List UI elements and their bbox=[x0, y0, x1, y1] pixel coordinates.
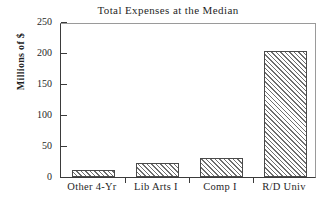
x-category-label: Lib Arts I bbox=[124, 181, 188, 192]
y-tick-label: 100 bbox=[37, 108, 52, 121]
x-category-label: R/D Univ bbox=[252, 181, 316, 192]
y-tick-mark bbox=[61, 146, 67, 147]
bar bbox=[264, 51, 307, 177]
bar bbox=[72, 170, 115, 177]
y-tick-label: 50 bbox=[42, 139, 52, 152]
y-tick-label: 200 bbox=[37, 46, 52, 59]
y-tick-mark bbox=[61, 177, 67, 178]
x-category-label: Other 4-Yr bbox=[60, 181, 124, 192]
bar-chart-figure: Total Expenses at the Median Millions of… bbox=[0, 0, 336, 202]
y-tick-mark bbox=[61, 115, 67, 116]
bar bbox=[200, 158, 243, 177]
y-tick-label: 150 bbox=[37, 77, 52, 90]
bar bbox=[136, 163, 179, 177]
y-tick-mark bbox=[61, 22, 67, 23]
y-axis-title: Millions of $ bbox=[15, 2, 26, 122]
plot-area: 050100150200250 bbox=[60, 23, 316, 178]
y-tick-mark bbox=[61, 84, 67, 85]
x-category-label: Comp I bbox=[188, 181, 252, 192]
y-tick-mark bbox=[61, 53, 67, 54]
y-tick-label: 250 bbox=[37, 15, 52, 28]
y-tick-label: 0 bbox=[47, 170, 52, 183]
